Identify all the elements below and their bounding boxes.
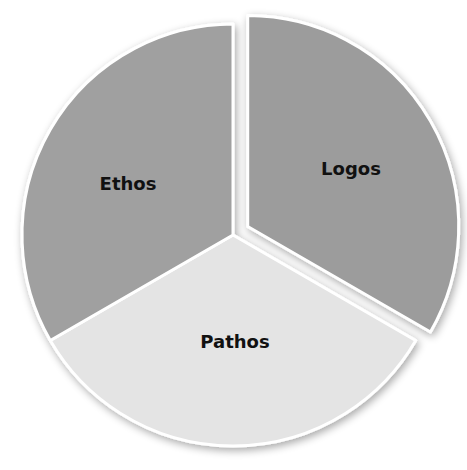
pie-chart: Logos Pathos Ethos <box>0 0 467 470</box>
pie-slices <box>22 16 459 447</box>
slice-label-logos: Logos <box>321 158 381 179</box>
slice-label-ethos: Ethos <box>100 173 157 194</box>
slice-label-pathos: Pathos <box>200 331 269 352</box>
